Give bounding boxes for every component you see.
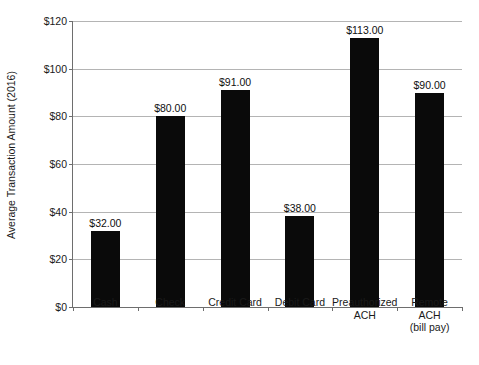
x-axis-category-label: RemoteACH(bill pay) xyxy=(390,296,470,334)
y-axis-title: Average Transaction Amount (2016) xyxy=(0,0,22,310)
y-axis-tick-mark xyxy=(69,259,73,260)
y-axis-tick-mark xyxy=(69,307,73,308)
y-axis-title-text: Average Transaction Amount (2016) xyxy=(5,71,17,239)
plot-area: $32.00$80.00$91.00$38.00$113.00$90.00 xyxy=(73,21,462,307)
gridline xyxy=(73,21,462,22)
bar-data-label: $80.00 xyxy=(154,102,186,114)
bar xyxy=(350,38,379,307)
y-axis-tick-mark xyxy=(69,212,73,213)
bar xyxy=(415,93,444,308)
gridline xyxy=(73,259,462,260)
y-axis-tick-mark xyxy=(69,69,73,70)
y-axis-tick-label: $100 xyxy=(23,63,67,75)
y-axis-tick-label: $80 xyxy=(23,110,67,122)
bar xyxy=(285,216,314,307)
bar xyxy=(221,90,250,307)
bar xyxy=(156,116,185,307)
y-axis-tick-label: $0 xyxy=(23,301,67,313)
bar-data-label: $38.00 xyxy=(284,202,316,214)
gridline xyxy=(73,212,462,213)
gridline xyxy=(73,69,462,70)
bar-data-label: $32.00 xyxy=(89,217,121,229)
y-axis-tick-label: $20 xyxy=(23,253,67,265)
x-axis-category-label-line: ACH xyxy=(390,309,470,322)
y-axis-tick-mark xyxy=(69,116,73,117)
gridline xyxy=(73,164,462,165)
bar-chart-figure: Average Transaction Amount (2016) $32.00… xyxy=(0,0,479,365)
bar-data-label: $90.00 xyxy=(414,79,446,91)
bar-data-label: $113.00 xyxy=(346,24,383,36)
clipped-chart-title xyxy=(30,0,460,4)
y-axis-tick-mark xyxy=(69,164,73,165)
y-axis-tick-label: $40 xyxy=(23,206,67,218)
y-axis-tick-label: $120 xyxy=(23,15,67,27)
gridline xyxy=(73,116,462,117)
y-axis-tick-label: $60 xyxy=(23,158,67,170)
x-axis-category-label-line: Remote xyxy=(390,296,470,309)
bar-data-label: $91.00 xyxy=(219,76,251,88)
y-axis-tick-mark xyxy=(69,21,73,22)
x-axis-category-label-line: (bill pay) xyxy=(390,321,470,334)
